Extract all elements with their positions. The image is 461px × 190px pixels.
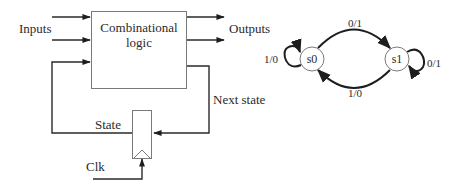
logic-label-line2: logic [126, 35, 152, 50]
sequential-circuit-diagram: Inputs Combinational logic Outputs Next … [0, 0, 461, 190]
self-loop-label-s0: 1/0 [264, 53, 279, 65]
state-s1-label: s1 [392, 52, 403, 66]
self-loop-s0 [285, 46, 301, 67]
next-state-label: Next state [213, 92, 266, 107]
state-s0-label: s0 [307, 52, 318, 66]
state-machine: 0/1 1/0 1/0 0/1 s0 s1 [264, 17, 441, 99]
inputs-label: Inputs [19, 21, 52, 36]
logic-label-line1: Combinational [100, 20, 178, 35]
state-label: State [95, 117, 121, 132]
transition-s1-to-s0 [318, 70, 390, 88]
transition-s0-to-s1 [318, 30, 390, 49]
transition-label-s0-s1: 0/1 [348, 17, 362, 29]
circuit-block: Inputs Combinational logic Outputs Next … [19, 12, 270, 180]
transition-label-s1-s0: 1/0 [348, 87, 363, 99]
clock-label: Clk [86, 159, 105, 174]
self-loop-s1 [407, 50, 424, 71]
self-loop-label-s1: 0/1 [427, 57, 441, 69]
state-register [133, 111, 152, 159]
outputs-label: Outputs [229, 21, 270, 36]
